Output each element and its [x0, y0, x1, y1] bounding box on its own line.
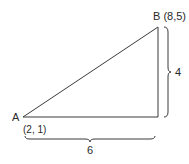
point-a-coords: (2, 1): [23, 124, 46, 135]
horizontal-brace: [25, 136, 155, 142]
vertical-brace: [164, 27, 171, 117]
horizontal-dimension-label: 6: [87, 144, 93, 156]
point-a-label: A: [12, 111, 20, 123]
triangle: [23, 27, 158, 117]
vertical-dimension-label: 4: [175, 66, 181, 78]
hypotenuse-ab: [23, 27, 158, 117]
triangle-diagram: B (8,5) A (2, 1) 4 6: [0, 0, 189, 164]
point-b-label: B (8,5): [153, 10, 186, 22]
